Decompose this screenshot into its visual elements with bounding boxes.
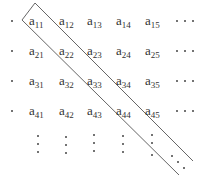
- matrix-entry: a23: [87, 44, 102, 60]
- matrix-entry: a25: [145, 44, 160, 60]
- row-marker: [11, 110, 13, 112]
- matrix-entry: a14: [116, 14, 131, 30]
- matrix-entry: a42: [59, 104, 74, 120]
- matrix-entry: a22: [59, 44, 74, 60]
- matrix-entry: a35: [145, 74, 160, 90]
- matrix-entry: a11: [29, 14, 43, 30]
- matrix-entry: a32: [59, 74, 74, 90]
- matrix-entry: a44: [116, 104, 131, 120]
- matrix-entry: a45: [145, 104, 160, 120]
- matrix-entry: a13: [87, 14, 102, 30]
- matrix-entry: a24: [116, 44, 131, 60]
- matrix-entry: a15: [145, 14, 160, 30]
- row-marker: [11, 80, 13, 82]
- row-marker: [11, 50, 13, 52]
- row-marker: [11, 20, 13, 22]
- matrix-diagram: a11 a12 a13 a14 a15 a21 a22 a23 a24 a25 …: [0, 0, 206, 188]
- matrix-entry: a41: [29, 104, 44, 120]
- matrix-entry: a12: [59, 14, 74, 30]
- matrix-entry: a31: [29, 74, 44, 90]
- matrix-entry: a33: [87, 74, 102, 90]
- matrix-entry: a34: [116, 74, 131, 90]
- matrix-entry: a43: [87, 104, 102, 120]
- matrix-entry: a21: [29, 44, 44, 60]
